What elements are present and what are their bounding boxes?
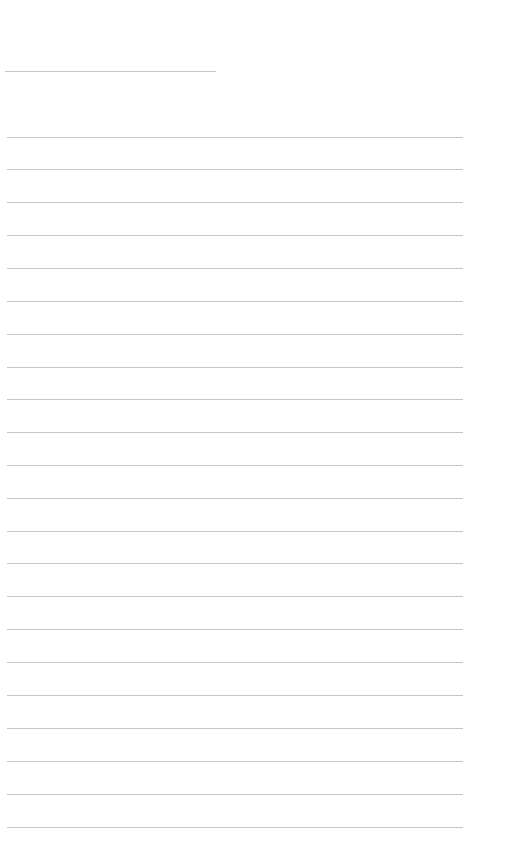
ruled-page	[0, 0, 522, 863]
writing-line	[7, 137, 463, 138]
writing-line	[7, 761, 463, 762]
writing-line	[7, 465, 463, 466]
writing-line	[7, 334, 463, 335]
writing-line	[7, 794, 463, 795]
writing-line	[7, 728, 463, 729]
writing-line	[7, 563, 463, 564]
writing-line	[7, 695, 463, 696]
writing-line	[7, 202, 463, 203]
writing-line	[7, 399, 463, 400]
writing-line	[7, 235, 463, 236]
writing-line	[7, 827, 463, 828]
writing-line	[7, 662, 463, 663]
writing-line	[7, 596, 463, 597]
writing-line	[7, 169, 463, 170]
writing-line	[7, 432, 463, 433]
writing-line	[7, 367, 463, 368]
writing-line	[7, 498, 463, 499]
writing-line	[7, 531, 463, 532]
writing-line	[7, 268, 463, 269]
writing-line	[7, 629, 463, 630]
writing-line	[7, 301, 463, 302]
title-line	[5, 71, 216, 72]
